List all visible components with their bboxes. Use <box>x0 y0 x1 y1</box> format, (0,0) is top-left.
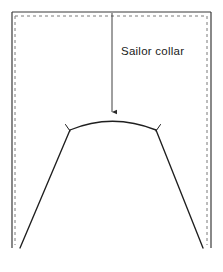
figure-background <box>0 0 223 272</box>
pattern-diagram-canvas <box>0 0 223 272</box>
pattern-diagram-figure: Sailor collar <box>0 0 223 272</box>
annotation-label-sailor-collar: Sailor collar <box>121 44 184 58</box>
